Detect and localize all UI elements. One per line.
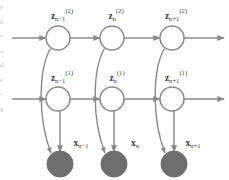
node-label-bottom-1: xn xyxy=(131,138,140,149)
label-superscript: (2) xyxy=(179,7,187,15)
node-label-middle-2: zn+1(1) xyxy=(165,69,187,84)
label-subscript: n+1 xyxy=(169,77,179,84)
nodes-layer xyxy=(46,26,187,177)
svg-text:zn+1(2): zn+1(2) xyxy=(165,7,187,22)
label-subscript: n xyxy=(136,142,140,149)
node-label-top-1: zn(2) xyxy=(108,7,123,22)
label-superscript: (1) xyxy=(117,69,125,77)
svg-text:zn(2): zn(2) xyxy=(108,7,123,22)
label-subscript: n+1 xyxy=(169,15,179,22)
label-superscript: (1) xyxy=(179,69,187,77)
label-superscript: (2) xyxy=(65,7,73,15)
node-label-top-0: zn−1(2) xyxy=(51,7,73,22)
label-subscript: n−1 xyxy=(55,15,65,22)
svg-text:zn+1(1): zn+1(1) xyxy=(165,69,187,84)
label-subscript: n+1 xyxy=(190,142,200,149)
node-z-nminus1-layer1[interactable] xyxy=(46,87,70,111)
svg-text:zn−1(1): zn−1(1) xyxy=(51,69,73,84)
graphical-model-diagram: zn−1(2)zn(2)zn+1(2)zn−1(1)zn(1)zn+1(1)xn… xyxy=(0,0,229,180)
node-x-nminus1-observed[interactable] xyxy=(47,151,73,177)
label-subscript: n xyxy=(114,77,118,84)
node-label-bottom-0: xn−1 xyxy=(73,138,88,149)
label-superscript: (2) xyxy=(116,7,124,15)
node-label-bottom-2: xn+1 xyxy=(185,138,200,149)
label-subscript: n−1 xyxy=(55,77,65,84)
node-z-nminus1-layer2[interactable] xyxy=(46,26,70,50)
node-z-nplus1-layer1[interactable] xyxy=(160,87,184,111)
node-z-n-layer2[interactable] xyxy=(100,26,124,50)
node-label-middle-1: zn(1) xyxy=(109,69,124,84)
node-z-n-layer1[interactable] xyxy=(100,87,124,111)
svg-text:xn: xn xyxy=(131,138,140,149)
svg-text:xn−1: xn−1 xyxy=(73,138,88,149)
label-superscript: (1) xyxy=(65,69,73,77)
label-subscript: n−1 xyxy=(78,142,88,149)
svg-text:zn(1): zn(1) xyxy=(109,69,124,84)
node-x-n-observed[interactable] xyxy=(101,151,127,177)
svg-text:zn−1(2): zn−1(2) xyxy=(51,7,73,22)
node-label-top-2: zn+1(2) xyxy=(165,7,187,22)
node-z-nplus1-layer2[interactable] xyxy=(160,26,184,50)
svg-text:xn+1: xn+1 xyxy=(185,138,200,149)
figure-root: ehsade-g xyxy=(0,0,229,180)
node-label-middle-0: zn−1(1) xyxy=(51,69,73,84)
node-x-nplus1-observed[interactable] xyxy=(161,151,187,177)
label-subscript: n xyxy=(113,15,117,22)
